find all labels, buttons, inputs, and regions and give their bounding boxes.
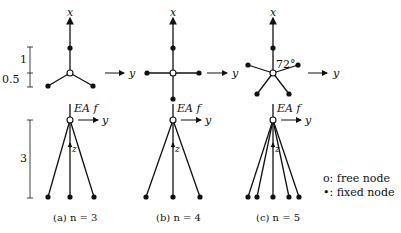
fixed-node-icon	[67, 45, 72, 50]
caption-c: (c) n = 5	[256, 212, 300, 223]
angle-label: 72°	[276, 58, 296, 71]
y-axis-label: y	[128, 67, 136, 80]
x-axis-label: x	[270, 6, 277, 19]
fixed-node-icon	[143, 194, 148, 199]
load-label: EA f	[276, 102, 302, 115]
dim-3-label: 3	[20, 152, 27, 165]
legend-fixed-node: •: fixed node	[323, 186, 395, 199]
fixed-node-icon	[91, 194, 96, 199]
y-axis-label: y	[101, 114, 109, 127]
caption-b: (b) n = 4	[156, 212, 201, 223]
panel-a-top	[48, 18, 124, 86]
legend: o: free node •: fixed node	[323, 172, 395, 199]
y-axis-label: y	[304, 114, 312, 127]
y-axis-label: y	[204, 114, 212, 127]
free-node-icon	[67, 117, 73, 123]
fixed-node-icon	[295, 62, 300, 67]
fixed-node-icon	[254, 91, 259, 96]
load-label: EA f	[73, 102, 99, 115]
fixed-node-icon	[245, 194, 250, 199]
z-axis-label: z	[174, 144, 180, 154]
fixed-node-icon	[197, 194, 202, 199]
fixed-node-icon	[286, 91, 291, 96]
fixed-node-icon	[90, 83, 95, 88]
fixed-node-icon	[196, 70, 201, 75]
x-axis-label: x	[67, 6, 74, 19]
fixed-node-icon	[254, 194, 259, 199]
fixed-node-icon	[144, 70, 149, 75]
free-node-icon	[170, 117, 176, 123]
fixed-node-icon	[67, 194, 72, 199]
fixed-node-icon	[170, 194, 175, 199]
dim-1-label: 1	[20, 53, 27, 66]
y-axis-label: y	[231, 67, 239, 80]
y-axis-label: y	[332, 67, 340, 80]
panel-b-top	[147, 18, 227, 99]
load-label: EA f	[176, 102, 202, 115]
dim-05-label: 0.5	[2, 73, 20, 86]
x-axis-label: x	[170, 6, 177, 19]
free-node-icon	[170, 70, 176, 76]
fixed-node-icon	[296, 194, 301, 199]
fixed-node-icon	[45, 194, 50, 199]
free-node-icon	[270, 117, 276, 123]
fixed-node-icon	[170, 96, 175, 101]
fixed-node-icon	[270, 194, 275, 199]
top-dimension	[27, 47, 33, 87]
fixed-node-icon	[270, 45, 275, 50]
fixed-node-icon	[45, 83, 50, 88]
fixed-node-icon	[286, 194, 291, 199]
z-axis-label: z	[71, 144, 77, 154]
panel-c-top	[248, 18, 327, 94]
caption-a: (a) n = 3	[53, 212, 97, 223]
fixed-node-icon	[170, 45, 175, 50]
free-node-icon	[67, 70, 73, 76]
fixed-node-icon	[245, 62, 250, 67]
bottom-dimension	[27, 120, 33, 198]
legend-free-node: o: free node	[323, 172, 390, 185]
cable-net-figure: 1 0.5 x y x y x y 72°	[0, 0, 401, 233]
z-axis-label: z	[274, 144, 280, 154]
